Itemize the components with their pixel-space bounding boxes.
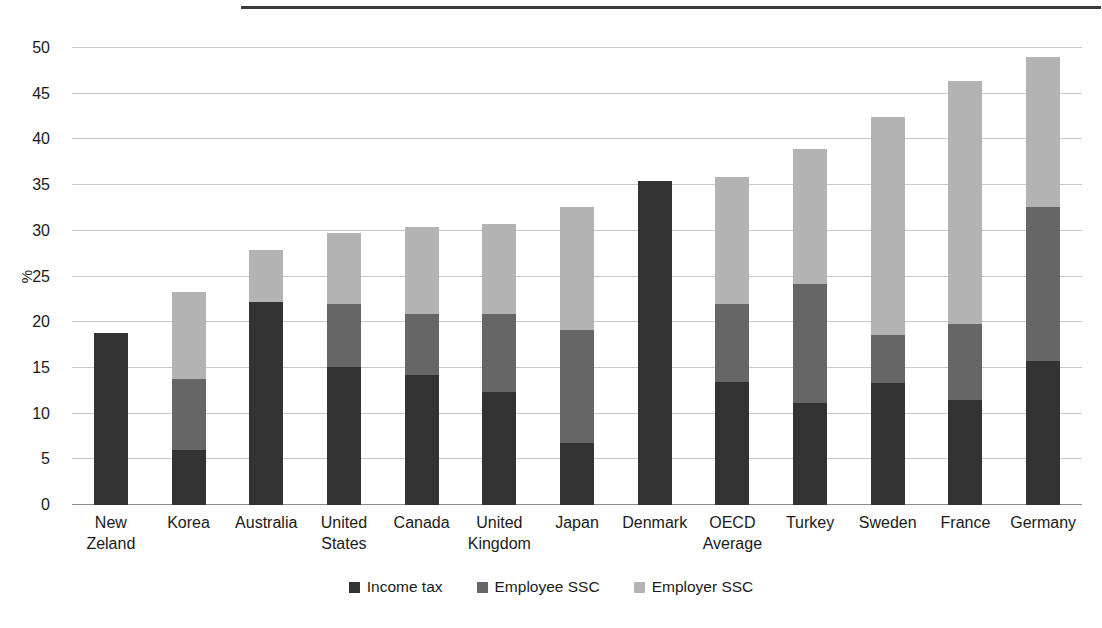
y-axis-tick-label: 45 [32,85,50,103]
legend-swatch-icon [634,582,645,593]
legend-swatch-icon [477,582,488,593]
bar-segment[interactable] [405,227,439,314]
x-axis-tick-label-line: Germany [997,512,1089,533]
y-axis-tick-labels: 05101520253035404550 [0,48,64,505]
x-axis-tick-label-line: Zeland [65,533,157,554]
bar-segment[interactable] [405,314,439,375]
bar-segment[interactable] [94,333,128,505]
legend-swatch-icon [349,582,360,593]
bar-segment[interactable] [715,382,749,505]
legend-label: Employer SSC [652,578,754,596]
y-axis-tick-label: 5 [41,450,50,468]
x-axis-tick-label-line: Kingdom [453,533,545,554]
bar-group[interactable] [172,48,206,505]
y-axis-tick-label: 30 [32,222,50,240]
bar-group[interactable] [793,48,827,505]
bar-segment[interactable] [560,330,594,443]
bar-segment[interactable] [327,304,361,367]
y-axis-tick-label: 25 [32,268,50,286]
x-axis-tick-label-line: Average [686,533,778,554]
chart-legend: Income taxEmployee SSCEmployer SSC [0,578,1102,596]
bar-segment[interactable] [715,177,749,304]
bar-group[interactable] [327,48,361,505]
y-axis-tick-label: 15 [32,359,50,377]
plot-area [72,48,1082,505]
bar-segment[interactable] [948,400,982,505]
bar-segment[interactable] [249,302,283,505]
bar-group[interactable] [638,48,672,505]
bar-segment[interactable] [1026,361,1060,505]
bar-group[interactable] [871,48,905,505]
bar-segment[interactable] [327,233,361,304]
bar-segment[interactable] [172,450,206,505]
bar-group[interactable] [482,48,516,505]
x-axis-tick-labels: NewZelandKoreaAustraliaUnitedStatesCanad… [72,512,1082,568]
legend-label: Income tax [367,578,443,596]
bar-segment[interactable] [405,375,439,505]
y-axis-tick-label: 35 [32,176,50,194]
stacked-bar-chart: % 05101520253035404550 NewZelandKoreaAus… [0,0,1102,628]
bar-group[interactable] [94,48,128,505]
bar-segment[interactable] [560,207,594,329]
y-axis-tick-label: 50 [32,39,50,57]
bar-segment[interactable] [715,304,749,382]
bar-segment[interactable] [1026,207,1060,361]
bar-segment[interactable] [172,292,206,379]
bar-segment[interactable] [638,181,672,505]
bar-segment[interactable] [793,403,827,505]
bar-segment[interactable] [249,250,283,302]
bar-segment[interactable] [871,335,905,383]
x-axis-tick-label-line: States [298,533,390,554]
bar-group[interactable] [405,48,439,505]
bar-segment[interactable] [871,383,905,505]
y-axis-tick-label: 40 [32,130,50,148]
y-axis-tick-label: 0 [41,496,50,514]
bar-segment[interactable] [482,392,516,505]
legend-entry[interactable]: Employee SSC [477,578,600,596]
bar-segment[interactable] [793,149,827,284]
bar-group[interactable] [715,48,749,505]
bar-group[interactable] [560,48,594,505]
bar-segment[interactable] [793,284,827,403]
x-axis-tick-label: Germany [997,512,1089,533]
bar-group[interactable] [1026,48,1060,505]
bars-layer [72,48,1082,505]
bar-segment[interactable] [560,443,594,505]
y-axis-tick-label: 10 [32,405,50,423]
bar-group[interactable] [249,48,283,505]
legend-label: Employee SSC [495,578,600,596]
y-axis-tick-label: 20 [32,313,50,331]
bar-segment[interactable] [172,379,206,450]
legend-entry[interactable]: Income tax [349,578,443,596]
bar-segment[interactable] [482,314,516,392]
bar-segment[interactable] [948,324,982,400]
legend-entry[interactable]: Employer SSC [634,578,754,596]
bar-group[interactable] [948,48,982,505]
bar-segment[interactable] [482,224,516,314]
bar-segment[interactable] [948,81,982,324]
bar-segment[interactable] [871,117,905,335]
bar-segment[interactable] [327,367,361,505]
bar-segment[interactable] [1026,57,1060,207]
